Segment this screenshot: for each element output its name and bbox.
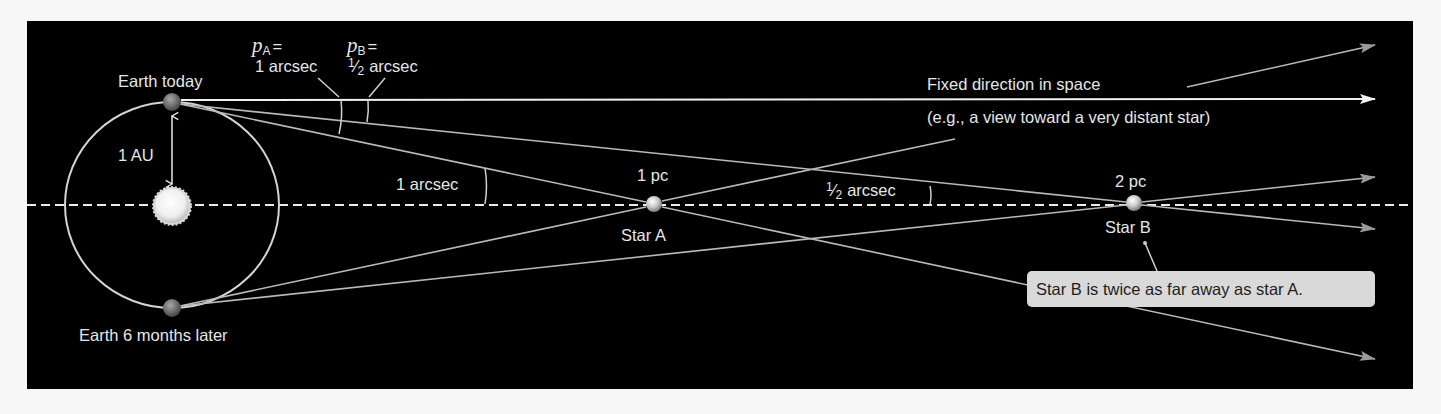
star-b-name: Star B (1105, 218, 1151, 236)
star-a-icon (646, 196, 662, 212)
callout-connector-dot (1143, 241, 1147, 245)
angle-a-label: 1 arcsec (396, 175, 458, 193)
fixed-direction-arrow (181, 99, 1375, 100)
parallax-diagram: Star B is twice as far away as star A. E… (0, 0, 1441, 414)
callout-text: Star B is twice as far away as star A. (1036, 280, 1303, 298)
pa-value: 1 arcsec (255, 57, 317, 75)
fixed-direction-example: (e.g., a view toward a very distant star… (927, 108, 1210, 126)
au-label: 1 AU (118, 146, 154, 164)
sun-icon (153, 187, 191, 225)
star-a-distance: 1 pc (637, 166, 668, 184)
star-b-icon (1126, 195, 1142, 211)
earth-later-label: Earth 6 months later (79, 326, 228, 344)
earth-today-label: Earth today (118, 72, 203, 90)
star-a-name: Star A (621, 226, 666, 244)
fixed-direction-label: Fixed direction in space (927, 75, 1100, 93)
star-b-distance: 2 pc (1115, 172, 1146, 190)
earth-later-icon (163, 299, 181, 317)
earth-today-icon (163, 93, 181, 111)
